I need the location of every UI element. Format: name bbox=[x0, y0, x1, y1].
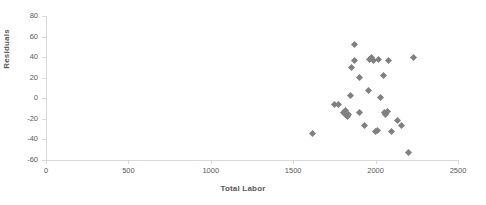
x-tick-label: 2500 bbox=[438, 166, 478, 176]
scatter-chart: 05001000150020002500 -60-40-20020406080 … bbox=[0, 0, 486, 205]
x-tick bbox=[211, 160, 212, 164]
x-axis-line bbox=[46, 160, 458, 161]
x-tick-label: 1000 bbox=[191, 166, 231, 176]
x-tick bbox=[376, 160, 377, 164]
y-tick bbox=[42, 160, 46, 161]
y-tick-label: -20 bbox=[12, 115, 38, 123]
y-tick-label: -40 bbox=[12, 135, 38, 143]
y-tick-label: 40 bbox=[12, 53, 38, 61]
x-tick bbox=[293, 160, 294, 164]
plot-area bbox=[46, 16, 458, 160]
x-tick bbox=[458, 160, 459, 164]
x-tick-label: 500 bbox=[108, 166, 148, 176]
y-tick-label: 60 bbox=[12, 33, 38, 41]
y-tick-label: 20 bbox=[12, 74, 38, 82]
x-tick-label: 1500 bbox=[273, 166, 313, 176]
x-tick-label: 2000 bbox=[356, 166, 396, 176]
x-tick bbox=[128, 160, 129, 164]
x-tick bbox=[46, 160, 47, 164]
y-tick-label: 80 bbox=[12, 12, 38, 20]
x-tick-label: 0 bbox=[26, 166, 66, 176]
y-tick-label: 0 bbox=[12, 94, 38, 102]
y-axis-title: Residuals bbox=[2, 14, 11, 84]
y-tick-label: -60 bbox=[12, 156, 38, 164]
x-axis-title: Total Labor bbox=[0, 184, 486, 193]
